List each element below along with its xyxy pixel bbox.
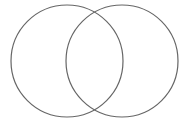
venn-diagram — [0, 0, 183, 128]
venn-circle-right — [66, 5, 178, 117]
venn-circle-left — [11, 5, 123, 117]
